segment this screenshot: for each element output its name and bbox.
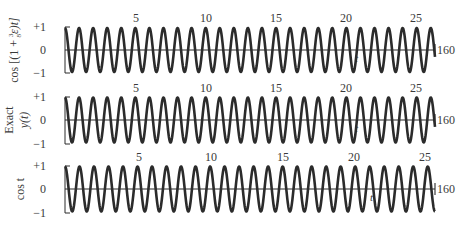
- top-xtick-25: 25: [410, 11, 422, 25]
- mid-xtick-25: 25: [410, 81, 422, 95]
- panel-top: cos [(1 + 38ε)t] +1 0 −1 160 t 5 10 15 2…: [7, 11, 455, 83]
- mid-end-label: 160: [437, 113, 455, 127]
- top-end-label: 160: [437, 43, 455, 57]
- mid-xtick-15: 15: [270, 81, 282, 95]
- bot-xtick-5: 5: [136, 150, 142, 164]
- top-ytick-0: 0: [40, 43, 46, 57]
- bot-xtick-20: 20: [348, 150, 360, 164]
- mid-ytick-0: 0: [40, 113, 46, 127]
- bot-xtick-15: 15: [277, 150, 289, 164]
- bot-ytick-0: 0: [40, 182, 46, 196]
- bot-ytick-minus1: −1: [33, 206, 46, 220]
- top-xtick-10: 10: [200, 11, 212, 25]
- top-xtick-15: 15: [270, 11, 282, 25]
- panel-middle: Exact y(t) +1 0 −1 160 t 5 10 15 20 25: [2, 81, 455, 151]
- mid-ytick-plus1: +1: [33, 90, 46, 104]
- panel-bottom: cos t +1 0 −1 160 t 5 10 15 20 25: [13, 150, 455, 220]
- top-xtick-5: 5: [133, 11, 139, 25]
- bot-end-label: 160: [437, 182, 455, 196]
- bot-ylabel: cos t: [13, 177, 27, 200]
- top-xtick-20: 20: [340, 11, 352, 25]
- figure: cos [(1 + 38ε)t] +1 0 −1 160 t 5 10 15 2…: [0, 0, 471, 225]
- mid-ylabel-line1: Exact: [2, 106, 16, 134]
- mid-xtick-10: 10: [200, 81, 212, 95]
- mid-ytick-minus1: −1: [33, 137, 46, 151]
- bot-xtick-10: 10: [205, 150, 217, 164]
- mid-xtick-5: 5: [133, 81, 139, 95]
- bot-wave-curve: [65, 167, 435, 212]
- top-ylabel: cos [(1 + 38ε)t]: [7, 17, 23, 83]
- bot-xtick-25: 25: [419, 150, 431, 164]
- top-ytick-minus1: −1: [33, 66, 46, 80]
- top-ytick-plus1: +1: [33, 20, 46, 34]
- mid-xtick-20: 20: [340, 81, 352, 95]
- bot-ytick-plus1: +1: [33, 159, 46, 173]
- mid-ylabel-line2: y(t): [17, 112, 31, 130]
